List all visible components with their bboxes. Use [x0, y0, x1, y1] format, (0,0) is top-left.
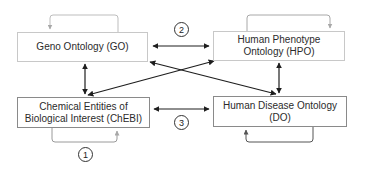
edge-go-do — [150, 62, 276, 94]
node-go-label: Geno Ontology (GO) — [36, 41, 128, 53]
node-chebi-label: Chemical Entities of Biological Interest… — [20, 101, 148, 125]
node-do: Human Disease Ontology (DO) — [213, 96, 347, 127]
do-self-loop — [246, 127, 313, 142]
hpo-self-loop — [247, 15, 330, 31]
node-do-label: Human Disease Ontology (DO) — [214, 100, 346, 124]
node-hpo: Human Phenotype Ontology (HPO) — [213, 31, 345, 61]
badge-2: 2 — [174, 22, 189, 37]
badge-3: 3 — [174, 115, 189, 130]
edge-hpo-chebi — [88, 61, 214, 95]
node-chebi: Chemical Entities of Biological Interest… — [17, 97, 150, 128]
node-go: Geno Ontology (GO) — [17, 32, 148, 62]
badge-1: 1 — [78, 147, 93, 162]
chebi-self-loop — [52, 128, 117, 142]
go-self-loop — [50, 15, 118, 32]
node-hpo-label: Human Phenotype Ontology (HPO) — [219, 34, 339, 58]
